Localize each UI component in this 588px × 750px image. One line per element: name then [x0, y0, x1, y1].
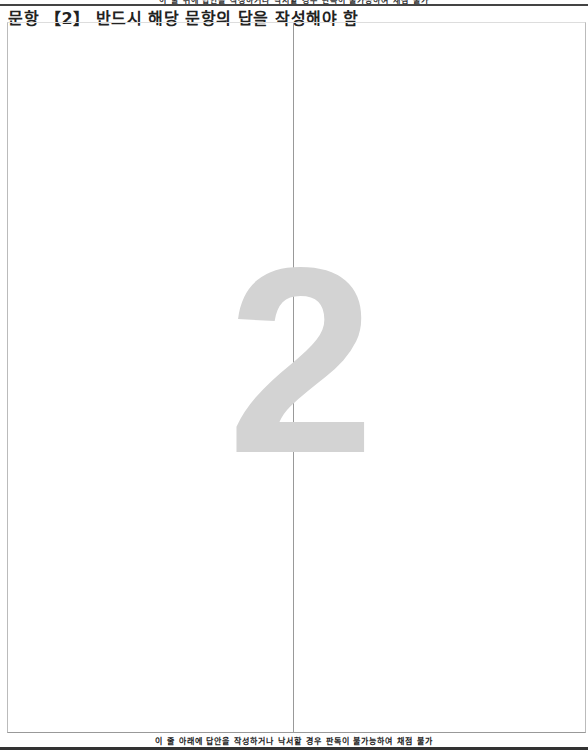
answer-box	[7, 22, 586, 733]
bottom-notice: 이 줄 아래에 답안을 작성하거나 낙서할 경우 판독이 불가능하여 채점 불가	[0, 735, 588, 746]
answer-column-right[interactable]	[294, 23, 585, 732]
answer-column-left[interactable]	[8, 23, 293, 732]
